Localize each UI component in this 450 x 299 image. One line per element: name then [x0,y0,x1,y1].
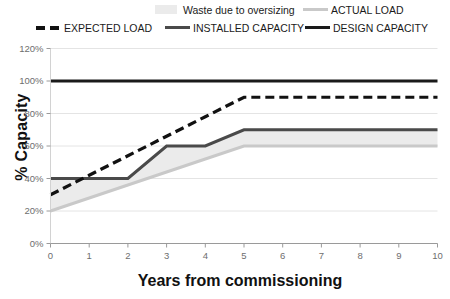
x-tick-label-0: 0 [41,250,61,261]
waste-due-to-oversizing-area [51,130,438,211]
x-tick-label-5: 5 [234,250,254,261]
y-axis-title: % Capacity [13,67,31,207]
y-tick-label-40pct: 40% [10,173,44,184]
plot-area: % Capacity Years from commissioning 0%20… [0,0,450,299]
x-tick-label-10: 10 [428,250,448,261]
y-tick-label-0pct: 0% [10,238,44,249]
x-tick-label-4: 4 [195,250,215,261]
x-tick-label-6: 6 [273,250,293,261]
x-tick-label-8: 8 [350,250,370,261]
y-tick-label-60pct: 60% [10,140,44,151]
plot-svg [0,0,450,299]
x-tick-label-2: 2 [118,250,138,261]
y-tick-label-100pct: 100% [10,75,44,86]
y-tick-label-120pct: 120% [10,43,44,54]
x-axis-title: Years from commissioning [40,272,440,290]
x-tick-label-1: 1 [79,250,99,261]
x-tick-label-9: 9 [389,250,409,261]
x-tick-label-7: 7 [311,250,331,261]
x-tick-label-3: 3 [157,250,177,261]
capacity-chart: Waste due to oversizing ACTUAL LOAD EXPE… [0,0,450,299]
y-tick-label-80pct: 80% [10,108,44,119]
y-tick-label-20pct: 20% [10,205,44,216]
